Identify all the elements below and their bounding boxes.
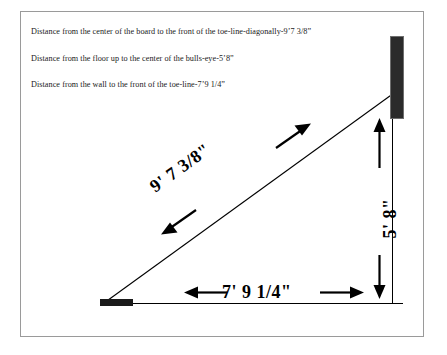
vertical-arrow-down-head <box>374 285 386 299</box>
vertical-dimension-label: 5' 8" <box>380 199 401 239</box>
vertical-arrow-up-head <box>374 118 386 132</box>
horizontal-arrow-right-head <box>350 287 364 299</box>
toe-line-marker <box>100 299 133 306</box>
horizontal-dimension-label: 7' 9 1/4" <box>222 282 292 303</box>
diagram-page: Distance from the center of the board to… <box>0 0 447 355</box>
dartboard-block <box>391 37 404 119</box>
diagonal-dimension-arrows <box>161 124 311 235</box>
throw-line-diagonal <box>104 93 394 303</box>
horizontal-arrow-left-head <box>184 287 198 299</box>
